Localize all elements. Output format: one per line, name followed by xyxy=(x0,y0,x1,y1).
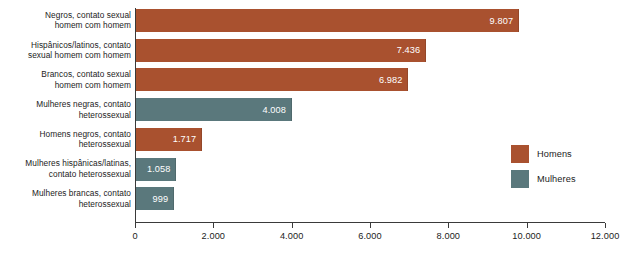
category-label: Negros, contato sexual homem com homem xyxy=(0,10,131,31)
bar-value-label: 1.058 xyxy=(147,164,171,174)
bar: 1.717 xyxy=(135,128,202,151)
bar-value-label: 1.717 xyxy=(173,134,197,144)
bar-value-label: 9.807 xyxy=(490,16,514,26)
legend-label: Mulheres xyxy=(537,174,576,184)
bar-value-label: 7.436 xyxy=(397,45,421,55)
x-tick xyxy=(213,223,214,228)
category-axis-labels: Negros, contato sexual homem com homemHi… xyxy=(0,0,131,222)
x-tick-label: 4.000 xyxy=(280,231,304,241)
x-tick-label: 10.000 xyxy=(512,231,541,241)
x-tick-label: 0 xyxy=(132,231,137,241)
legend-swatch xyxy=(511,145,529,163)
category-label: Mulheres hispânicas/latinas, contato het… xyxy=(0,158,131,179)
category-label: Hispânicos/latinos, contato sexual homem… xyxy=(0,40,131,61)
x-tick xyxy=(605,223,606,228)
category-label: Mulheres negras, contato heterossexual xyxy=(0,99,131,120)
category-label: Homens negros, contato heterossexual xyxy=(0,129,131,150)
bar: 6.982 xyxy=(135,68,408,91)
x-tick-label: 2.000 xyxy=(202,231,226,241)
bar-chart: Negros, contato sexual homem com homemHi… xyxy=(0,0,632,266)
x-tick xyxy=(370,223,371,228)
y-axis-line xyxy=(135,8,136,223)
bar-value-label: 6.982 xyxy=(379,75,403,85)
legend-swatch xyxy=(511,170,529,188)
bar: 9.807 xyxy=(135,9,519,32)
bar: 4.008 xyxy=(135,98,292,121)
bar-value-label: 999 xyxy=(152,194,168,204)
legend-label: Homens xyxy=(537,149,572,159)
bar: 1.058 xyxy=(135,158,176,181)
x-tick-label: 6.000 xyxy=(358,231,382,241)
bar-value-label: 4.008 xyxy=(262,105,286,115)
x-tick-label: 8.000 xyxy=(437,231,461,241)
x-tick xyxy=(448,223,449,228)
x-tick xyxy=(135,223,136,228)
bar: 7.436 xyxy=(135,39,426,62)
plot-area: 9.8077.4366.9824.0081.7171.058999 xyxy=(135,0,605,222)
x-tick xyxy=(292,223,293,228)
x-tick xyxy=(527,223,528,228)
x-tick-label: 12.000 xyxy=(591,231,620,241)
category-label: Mulheres brancas, contato heterossexual xyxy=(0,188,131,209)
category-label: Brancos, contato sexual homem com homem xyxy=(0,69,131,90)
bar: 999 xyxy=(135,187,174,210)
